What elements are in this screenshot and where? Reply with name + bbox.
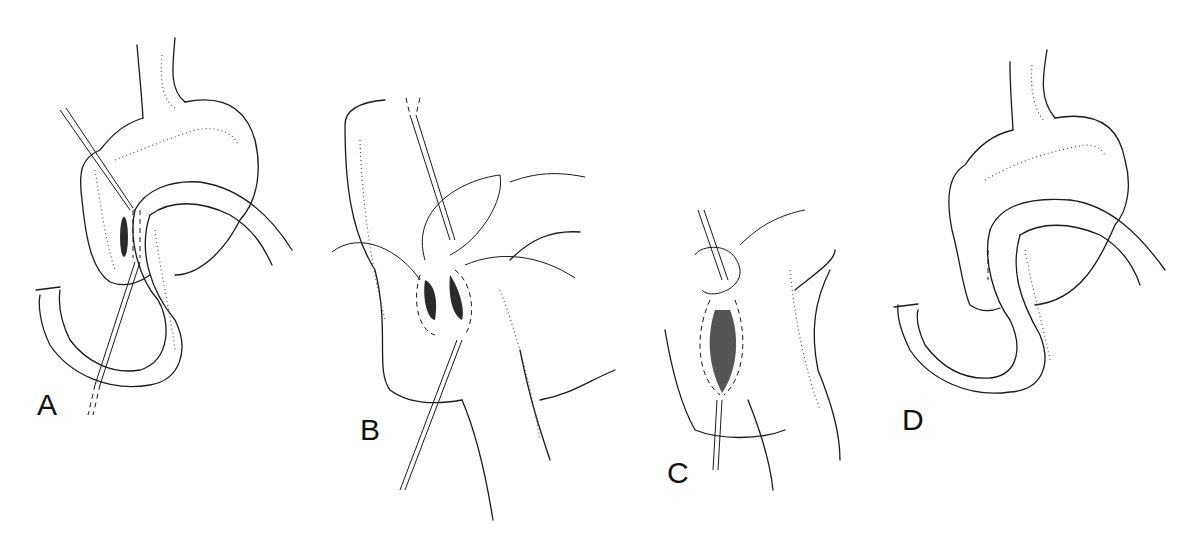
panel-label-a: A [37,390,57,420]
panel-c: C [620,0,870,554]
incision-mark [120,217,128,257]
panel-b-drawing [300,0,620,554]
panel-label-d: D [902,405,924,435]
panel-label-c: C [667,458,689,488]
panel-b: B [300,0,620,554]
panel-a: A [0,0,300,554]
panel-d-drawing [870,0,1192,554]
panel-d: D [870,0,1192,554]
panel-c-drawing [620,0,870,554]
panel-a-drawing [0,0,300,554]
panel-label-b: B [360,415,380,445]
